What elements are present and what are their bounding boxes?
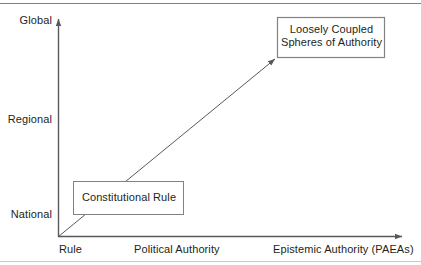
loosely-coupled-spheres-label: Loosely Coupled Spheres of Authority <box>278 23 385 49</box>
y-axis-tick-regional: Regional <box>0 113 52 125</box>
y-axis-tick-national: National <box>0 208 52 220</box>
x-axis-tick-rule: Rule <box>59 243 82 255</box>
x-axis-tick-epistemic-authority: Epistemic Authority (PAEAs) <box>273 243 414 255</box>
y-axis-tick-global: Global <box>6 14 52 26</box>
constitutional-rule-label: Constitutional Rule <box>74 191 184 204</box>
loosely-coupled-spheres-label-line1: Loosely Coupled <box>278 23 385 36</box>
loosely-coupled-spheres-label-line2: Spheres of Authority <box>278 36 385 49</box>
x-axis-tick-political-authority: Political Authority <box>134 243 220 255</box>
diagram-figure: Global Regional National Rule Political … <box>0 0 421 265</box>
